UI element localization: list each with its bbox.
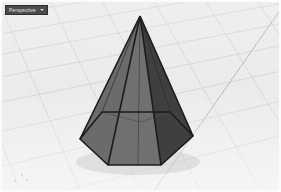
hexagonal-pyramid[interactable] <box>2 2 279 190</box>
viewport-panel[interactable]: Perspective <box>0 0 281 192</box>
chevron-down-icon[interactable] <box>40 9 44 11</box>
capture-speck <box>26 179 28 181</box>
capture-speck <box>21 174 23 176</box>
viewport-label-text: Perspective <box>9 8 36 13</box>
screenshot-root: Perspective <box>0 0 281 192</box>
viewport-label-tab[interactable]: Perspective <box>5 5 48 15</box>
3d-scene[interactable] <box>2 2 279 190</box>
capture-speck <box>14 180 16 182</box>
